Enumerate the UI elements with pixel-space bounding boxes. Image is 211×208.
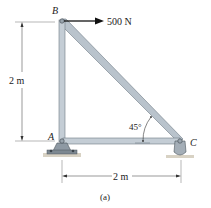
pin-b-icon (60, 19, 64, 23)
bolt-icon (72, 150, 75, 153)
dim-arrow-up-icon (21, 22, 24, 27)
member-bc (62, 19, 183, 143)
pin-a-icon (60, 139, 64, 143)
angle-arc (143, 117, 151, 141)
load-arrow-head-icon (95, 18, 104, 25)
dim-horizontal-label: 2 m (113, 171, 129, 182)
point-b-label: B (52, 5, 58, 16)
dim-arrow-right-icon (176, 175, 181, 178)
angle-arc-start (142, 140, 144, 142)
bolt-icon (50, 150, 53, 153)
dim-vertical-label: 2 m (9, 75, 25, 86)
angle-label: 45° (129, 122, 142, 132)
pin-c-icon (178, 139, 182, 143)
ground-c (166, 155, 194, 158)
angle-arc-end (150, 116, 152, 118)
load-label: 500 N (107, 16, 132, 27)
figure-caption: (a) (100, 192, 110, 202)
point-a-label: A (47, 131, 55, 142)
truss-diagram: 2 m 2 m 45° 500 N B A C (a) (0, 0, 211, 208)
member-ac (63, 138, 180, 144)
point-c-label: C (190, 137, 197, 148)
dim-arrow-down-icon (21, 136, 24, 141)
member-ab (59, 20, 65, 142)
dim-arrow-left-icon (62, 175, 67, 178)
